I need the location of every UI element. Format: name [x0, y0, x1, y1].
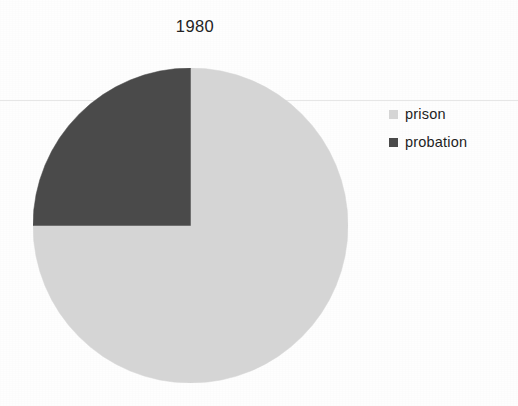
- chart-page: 1980 prison probation: [0, 0, 518, 406]
- pie-svg: [33, 68, 348, 383]
- pie-slice-probation[interactable]: [33, 68, 191, 226]
- legend-label-prison: prison: [405, 106, 446, 122]
- legend-swatch-probation-icon: [389, 138, 398, 147]
- chart-title: 1980: [0, 17, 390, 36]
- legend-label-probation: probation: [405, 134, 467, 150]
- legend-swatch-prison-icon: [389, 110, 398, 119]
- pie-chart: [33, 68, 348, 383]
- chart-legend: prison probation: [389, 100, 467, 156]
- legend-item-prison[interactable]: prison: [389, 100, 467, 128]
- legend-item-probation[interactable]: probation: [389, 128, 467, 156]
